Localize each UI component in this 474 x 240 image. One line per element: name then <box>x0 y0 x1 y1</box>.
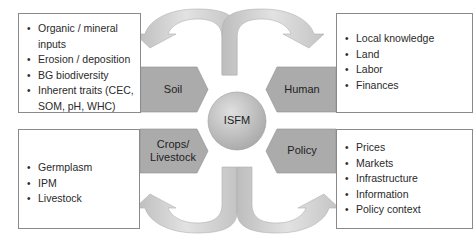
top-right-curved-arrow <box>222 9 324 75</box>
soil-label: Soil <box>140 83 206 96</box>
crops-label-line1: Crops/ <box>157 138 189 150</box>
list-item: Labor <box>340 62 468 78</box>
soil-factors-box: Organic / mineral inputs Erosion / depos… <box>18 13 141 113</box>
human-factors-box: Local knowledge Land Labor Finances <box>336 13 473 113</box>
isfm-label: ISFM <box>208 114 266 127</box>
list-item: Erosion / deposition <box>22 52 136 68</box>
list-item: Livestock <box>22 191 135 207</box>
human-label: Human <box>268 83 336 96</box>
crops-label-line2: Livestock <box>150 151 196 163</box>
list-item: Land <box>340 47 468 63</box>
list-item: Markets <box>340 156 468 172</box>
list-item: Inherent traits (CEC, SOM, pH, WHC) <box>22 83 136 114</box>
bottom-right-curved-arrow <box>237 167 339 233</box>
policy-factors-box: Prices Markets Infrastructure Informatio… <box>336 129 473 229</box>
list-item: Local knowledge <box>340 31 468 47</box>
list-item: IPM <box>22 176 135 192</box>
list-item: Germplasm <box>22 160 135 176</box>
list-item: Information <box>340 187 468 203</box>
crops-label: Crops/ Livestock <box>140 138 206 164</box>
crops-factors-box: Germplasm IPM Livestock <box>18 129 140 229</box>
list-item: Infrastructure <box>340 171 468 187</box>
bottom-left-curved-arrow <box>135 167 237 233</box>
list-item: Finances <box>340 78 468 94</box>
list-item: Policy context <box>340 202 468 218</box>
list-item: BG biodiversity <box>22 68 136 84</box>
policy-label: Policy <box>268 144 336 157</box>
list-item: Prices <box>340 140 468 156</box>
list-item: Organic / mineral inputs <box>22 21 136 52</box>
